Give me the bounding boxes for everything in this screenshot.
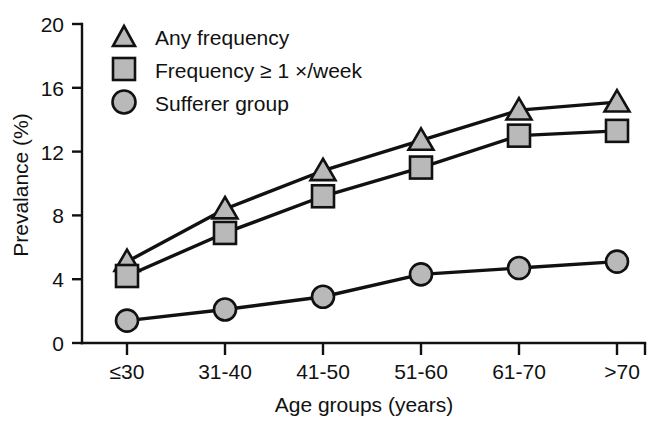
x-tick-label-5: >70 [604, 360, 640, 383]
chart-legend: Any frequency Frequency ≥ 1 ×/week Suffe… [113, 26, 363, 115]
x-tick-label-4: 61-70 [492, 360, 546, 383]
data-point-triangle [605, 90, 630, 111]
square-marker-icon [113, 58, 135, 80]
data-point-circle [410, 263, 432, 285]
x-axis [82, 343, 645, 355]
series-line [127, 262, 617, 321]
y-tick-label-4: 4 [52, 268, 64, 291]
y-axis [72, 24, 82, 343]
y-tick-label-0: 0 [52, 332, 64, 355]
series-layer [115, 90, 630, 332]
series-square [116, 120, 628, 287]
triangle-marker-icon [113, 26, 135, 46]
y-tick-label-12: 12 [41, 141, 64, 164]
x-tick-label-0: ≤30 [110, 360, 145, 383]
x-tick-label-1: 31-40 [198, 360, 252, 383]
y-tick-label-8: 8 [52, 204, 64, 227]
legend-label-2: Sufferer group [155, 92, 289, 115]
legend-entry-frequency-weekly: Frequency ≥ 1 ×/week [113, 58, 363, 82]
data-point-square [410, 157, 432, 179]
data-point-circle [214, 299, 236, 321]
data-point-circle [312, 286, 334, 308]
data-point-square [214, 222, 236, 244]
legend-entry-any-frequency: Any frequency [113, 26, 290, 49]
x-axis-title: Age groups (years) [275, 393, 454, 416]
y-tick-label-20: 20 [41, 13, 64, 36]
y-tick-label-16: 16 [41, 77, 64, 100]
data-point-square [508, 125, 530, 147]
series-circle [116, 251, 628, 332]
data-point-triangle [213, 197, 238, 218]
data-point-square [116, 265, 138, 287]
chart-canvas: 20 16 12 8 4 0 ≤30 31-40 41-50 51-60 61-… [0, 0, 659, 421]
data-point-square [606, 120, 628, 142]
legend-entry-sufferer-group: Sufferer group [113, 91, 289, 116]
data-point-circle [606, 251, 628, 273]
series-line [127, 131, 617, 276]
x-tick-label-2: 41-50 [296, 360, 350, 383]
data-point-square [312, 185, 334, 207]
data-point-circle [116, 310, 138, 332]
y-axis-title: Prevalance (%) [9, 113, 32, 257]
circle-marker-icon [113, 91, 136, 114]
legend-label-1: Frequency ≥ 1 ×/week [155, 59, 363, 82]
prevalence-line-chart: 20 16 12 8 4 0 ≤30 31-40 41-50 51-60 61-… [0, 0, 659, 421]
data-point-circle [508, 257, 530, 279]
legend-label-0: Any frequency [155, 26, 290, 49]
x-tick-label-3: 51-60 [394, 360, 448, 383]
